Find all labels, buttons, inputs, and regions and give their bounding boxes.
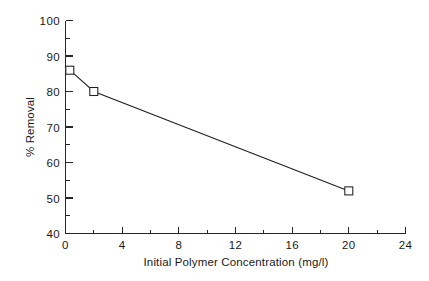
y-tick-label: 70 — [46, 122, 60, 134]
series-line — [70, 70, 349, 191]
y-axis-major-ticks — [66, 21, 73, 234]
x-tick-label: 16 — [285, 239, 299, 251]
y-axis-title: % Removal — [24, 97, 36, 157]
line-chart-plot: 100 90 80 70 60 50 40 0 4 8 12 16 20 24 … — [0, 0, 429, 281]
data-series-removal — [66, 66, 353, 195]
y-tick-label: 60 — [46, 157, 60, 169]
x-tick-label: 4 — [119, 239, 126, 251]
x-tick-label: 20 — [342, 239, 356, 251]
x-axis-title: Initial Polymer Concentration (mg/l) — [144, 256, 329, 268]
y-tick-label: 50 — [46, 193, 60, 205]
x-tick-label: 0 — [62, 239, 69, 251]
x-axis-major-ticks — [66, 227, 406, 234]
x-tick-label: 24 — [399, 239, 413, 251]
y-tick-label: 90 — [46, 51, 60, 63]
data-point-marker — [90, 88, 98, 96]
x-tick-label: 12 — [229, 239, 243, 251]
x-tick-label: 8 — [175, 239, 182, 251]
y-tick-label: 80 — [46, 86, 60, 98]
x-axis-tick-labels: 0 4 8 12 16 20 24 — [62, 239, 412, 251]
data-point-marker — [345, 187, 353, 195]
y-axis-tick-labels: 100 90 80 70 60 50 40 — [40, 15, 60, 240]
y-tick-label: 40 — [46, 228, 60, 240]
chart-figure: 100 90 80 70 60 50 40 0 4 8 12 16 20 24 … — [0, 0, 429, 281]
y-tick-label: 100 — [40, 15, 60, 27]
data-point-marker — [66, 66, 74, 74]
